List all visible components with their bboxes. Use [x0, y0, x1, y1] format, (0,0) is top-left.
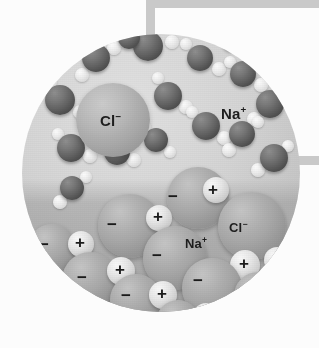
magnifier-circle: −+−+−+−++−+−−+−−+ Cl−Na+Cl−Na+ [22, 34, 300, 312]
ion-label-na-crystal: Na+ [185, 236, 207, 250]
water-molecule [22, 34, 300, 312]
negative-charge-symbol: − [39, 236, 49, 253]
positive-charge-symbol: + [200, 306, 210, 312]
negative-charge-symbol: − [193, 272, 203, 289]
negative-charge-symbol: − [107, 216, 117, 233]
positive-charge-symbol: + [75, 234, 85, 251]
figure-caption [0, 338, 319, 348]
negative-charge-symbol: − [121, 287, 131, 304]
positive-charge-symbol: + [115, 261, 125, 278]
negative-charge-symbol: − [152, 247, 162, 264]
ion-label-cl-crystal: Cl− [229, 220, 248, 234]
positive-charge-symbol: + [208, 181, 218, 198]
negative-charge-symbol: − [168, 188, 178, 205]
positive-charge-symbol: + [157, 285, 167, 302]
positive-charge-symbol: + [239, 255, 249, 272]
positive-charge-symbol: + [272, 250, 282, 267]
negative-charge-symbol: − [225, 294, 235, 311]
ion-label-cl-solvated: Cl− [100, 112, 121, 128]
callout-connector-top-bar [146, 0, 319, 8]
negative-charge-symbol: − [77, 269, 87, 286]
ion-label-na-solvated: Na+ [221, 105, 247, 121]
illustration-canvas: −+−+−+−++−+−−+−−+ Cl−Na+Cl−Na+ [0, 0, 319, 348]
positive-charge-symbol: + [153, 208, 163, 225]
negative-charge-symbol: − [169, 311, 179, 312]
